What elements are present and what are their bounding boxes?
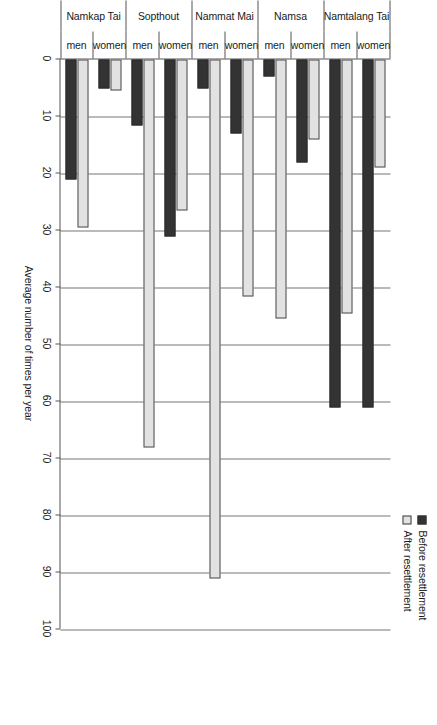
category-label-village: Namtalang Tai: [324, 0, 390, 31]
bar-before-resettlement: [296, 59, 308, 162]
category-axis-village-tier: Namtalang TaiNamsaNammat MaiSopthoutNamk…: [60, 0, 390, 31]
bar-before-resettlement: [98, 59, 110, 88]
value-axis-tick: [55, 58, 60, 59]
gridline: [60, 515, 390, 516]
value-axis-tick: [55, 343, 60, 344]
bar-before-resettlement: [263, 59, 275, 76]
category-label-sex: women: [225, 31, 258, 58]
category-label-village-text: Namtalang Tai: [324, 10, 390, 22]
value-axis-tick-label: 30: [40, 223, 52, 235]
category-label-village-text: Nammat Mai: [195, 10, 254, 22]
bar-before-resettlement: [164, 59, 176, 236]
category-label-village: Sopthout: [126, 0, 192, 31]
value-axis-tick-label: 80: [40, 508, 52, 520]
gridline: [60, 572, 390, 573]
bar-after-resettlement: [275, 59, 287, 318]
bar-after-resettlement: [374, 59, 386, 167]
bar-before-resettlement: [362, 59, 374, 407]
bar-after-resettlement: [77, 59, 89, 227]
chart-figure-rotator: Before resettlement After resettlement 0…: [0, 0, 437, 725]
category-label-village: Nammat Mai: [192, 0, 258, 31]
value-axis-tick-label: 10: [40, 109, 52, 121]
chart-legend: Before resettlement After resettlement: [401, 515, 427, 620]
gridline: [60, 458, 390, 459]
category-label-village: Namkap Tai: [60, 0, 126, 31]
value-axis: 0102030405060708090100: [59, 58, 60, 628]
bar-after-resettlement: [110, 59, 122, 90]
category-label-sex-text: men: [330, 38, 350, 50]
category-label-sex-text: women: [356, 39, 389, 51]
category-label-sex: men: [126, 31, 159, 58]
bar-after-resettlement: [341, 59, 353, 313]
value-axis-tick: [55, 571, 60, 572]
category-label-sex: men: [258, 31, 291, 58]
value-axis-tick-label: 90: [40, 565, 52, 577]
bar-after-resettlement: [242, 59, 254, 296]
bar-before-resettlement: [329, 59, 341, 407]
category-label-sex-text: women: [224, 39, 257, 51]
legend-item-before: Before resettlement: [416, 515, 427, 620]
value-axis-tick-label: 70: [40, 451, 52, 463]
bar-chart-figure: Before resettlement After resettlement 0…: [0, 0, 437, 725]
category-label-sex: men: [60, 31, 93, 58]
value-axis-tick-label: 100: [40, 619, 52, 637]
category-label-sex-text: men: [66, 38, 86, 50]
category-label-sex-text: men: [264, 38, 284, 50]
bar-before-resettlement: [65, 59, 77, 179]
plot-area: [60, 58, 390, 629]
value-axis-tick: [55, 172, 60, 173]
value-axis-tick: [55, 457, 60, 458]
legend-swatch-before-icon: [417, 515, 426, 524]
legend-item-after: After resettlement: [401, 515, 412, 620]
gridline: [60, 629, 390, 630]
category-label-sex: men: [192, 31, 225, 58]
category-label-sex: women: [93, 31, 126, 58]
category-label-sex: women: [357, 31, 390, 58]
category-label-village-text: Namkap Tai: [66, 10, 120, 22]
bar-before-resettlement: [131, 59, 143, 125]
value-axis-tick: [55, 115, 60, 116]
category-label-village-text: Namsa: [274, 10, 307, 22]
category-axis: womenmenwomenmenwomenmenwomenmenwomenmen…: [60, 0, 390, 58]
category-label-village: Namsa: [258, 0, 324, 31]
legend-swatch-after-icon: [402, 515, 411, 524]
bar-after-resettlement: [308, 59, 320, 139]
value-axis-tick: [55, 514, 60, 515]
bar-before-resettlement: [197, 59, 209, 88]
value-axis-tick: [55, 286, 60, 287]
bar-after-resettlement: [176, 59, 188, 210]
category-label-sex-text: women: [92, 39, 125, 51]
legend-label-before: Before resettlement: [416, 530, 427, 620]
category-axis-sex-tier: womenmenwomenmenwomenmenwomenmenwomenmen: [60, 31, 390, 58]
bar-before-resettlement: [230, 59, 242, 133]
value-axis-tick: [55, 400, 60, 401]
value-axis-tick: [55, 628, 60, 629]
category-label-sex: women: [291, 31, 324, 58]
value-axis-tick-label: 50: [40, 337, 52, 349]
bar-after-resettlement: [143, 59, 155, 447]
category-label-sex-text: men: [132, 38, 152, 50]
value-axis-tick-label: 40: [40, 280, 52, 292]
category-label-sex-text: women: [290, 39, 323, 51]
bar-after-resettlement: [209, 59, 221, 578]
category-label-village-text: Sopthout: [138, 10, 179, 22]
category-label-sex: men: [324, 31, 357, 58]
category-label-sex: women: [159, 31, 192, 58]
value-axis-tick-label: 60: [40, 394, 52, 406]
value-axis-title: Average number of times per year: [22, 58, 34, 628]
category-label-sex-text: women: [158, 39, 191, 51]
value-axis-tick-label: 0: [40, 55, 52, 61]
legend-label-after: After resettlement: [401, 530, 412, 611]
value-axis-tick-label: 20: [40, 166, 52, 178]
value-axis-tick: [55, 229, 60, 230]
category-label-sex-text: men: [198, 38, 218, 50]
